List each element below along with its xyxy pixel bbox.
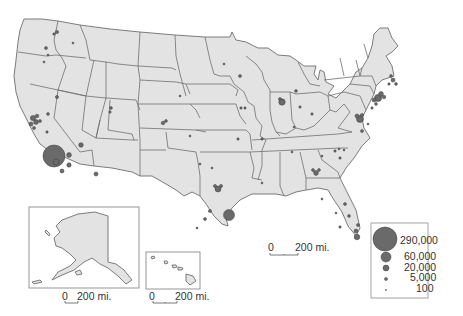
svg-text:200 mi.: 200 mi. bbox=[295, 241, 329, 253]
main-scale-bar: 0 200 mi. bbox=[268, 241, 329, 255]
svg-text:0: 0 bbox=[268, 241, 274, 253]
contiguous-us-landmass bbox=[14, 19, 398, 236]
svg-text:0: 0 bbox=[62, 290, 68, 302]
alaska-scale-bar: 0 200 mi. bbox=[62, 290, 111, 303]
legend-symbol-20000 bbox=[383, 265, 389, 271]
legend-symbol-5000 bbox=[385, 278, 388, 281]
legend: 290,000 60,000 20,000 5,000 100 bbox=[371, 223, 438, 298]
us-proportional-symbol-map: 0 200 mi. 0 200 mi. 0 200 mi. 290,000 60… bbox=[0, 0, 463, 316]
legend-symbol-290000 bbox=[373, 227, 397, 251]
legend-symbol-60000 bbox=[381, 252, 391, 262]
svg-text:200 mi.: 200 mi. bbox=[175, 290, 209, 302]
svg-text:290,000: 290,000 bbox=[400, 234, 438, 246]
svg-text:0: 0 bbox=[149, 290, 155, 302]
svg-text:200 mi.: 200 mi. bbox=[77, 290, 111, 302]
svg-text:100: 100 bbox=[416, 282, 434, 294]
legend-symbol-100 bbox=[385, 289, 386, 290]
hawaii-scale-bar: 0 200 mi. bbox=[149, 290, 209, 303]
